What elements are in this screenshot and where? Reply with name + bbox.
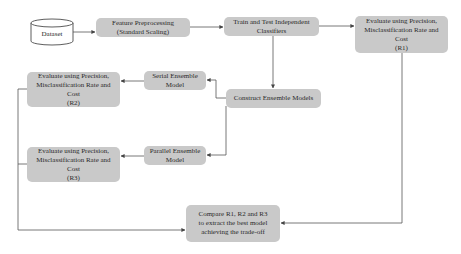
edge-eval-r1-compare [281, 53, 402, 223]
node-text-line: Cost [67, 165, 80, 174]
node-text-line: Parallel Ensemble [150, 147, 201, 156]
node-text-line: Cost [67, 90, 80, 99]
node-text-line: Misclassification Rate and [36, 156, 110, 165]
dataset-node: Dataset [31, 30, 73, 38]
compare-results-node: Compare R1, R2 and R3 to extract the bes… [186, 205, 280, 242]
construct-ensemble-node: Construct Ensemble Models [226, 89, 321, 108]
serial-ensemble-node: Serial Ensemble Model [144, 71, 206, 90]
node-text-line: Evaluate using Precision, [38, 72, 109, 81]
node-text-line: to extract the best model [199, 219, 268, 228]
edge-construct-parallel [207, 106, 226, 155]
node-text-line: Model [166, 81, 184, 90]
node-text-line: achieving the trade-off [201, 228, 265, 237]
edge-construct-serial [207, 80, 226, 98]
dataset-label: Dataset [42, 30, 63, 38]
evaluate-r2-node: Evaluate using Precision, Misclassificat… [27, 72, 120, 107]
node-text-line: (R2) [67, 99, 80, 108]
node-text-line: Cost [395, 35, 408, 44]
parallel-ensemble-node: Parallel Ensemble Model [144, 146, 206, 165]
node-text-line: Misclassification Rate and [36, 81, 110, 90]
node-text-line: (Standard Scaling) [117, 28, 169, 37]
node-text-line: Classifiers [257, 27, 287, 36]
node-text-line: Feature Preprocessing [112, 19, 174, 28]
node-text-line: Evaluate using Precision, [366, 17, 437, 26]
node-text-line: Compare R1, R2 and R3 [198, 210, 267, 219]
feature-preprocessing-node: Feature Preprocessing (Standard Scaling) [96, 18, 190, 37]
node-text-line: Evaluate using Precision, [38, 147, 109, 156]
node-text-line: (R3) [67, 174, 80, 183]
evaluate-r3-node: Evaluate using Precision, Misclassificat… [27, 147, 120, 182]
node-text-line: Construct Ensemble Models [234, 94, 313, 103]
node-text-line: Misclassification Rate and [364, 26, 438, 35]
node-text-line: Model [166, 156, 184, 165]
node-text-line: Train and Test Independent [233, 18, 309, 27]
node-text-line: Serial Ensemble [152, 72, 198, 81]
evaluate-r1-node: Evaluate using Precision, Misclassificat… [355, 16, 448, 53]
train-test-classifiers-node: Train and Test Independent Classifiers [224, 17, 319, 36]
node-text-line: (R1) [395, 44, 408, 53]
